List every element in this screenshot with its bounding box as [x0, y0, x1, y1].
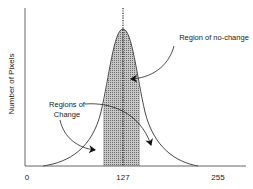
- x-tick-255: 255: [211, 173, 225, 182]
- y-axis-label: Number of Pixels: [7, 54, 16, 115]
- change-arrow-left: [60, 120, 95, 150]
- no-change-band: [103, 20, 140, 166]
- x-tick-127: 127: [116, 173, 130, 182]
- histogram-diagram: Number of Pixels 0 127 255 Region of no-…: [0, 0, 253, 189]
- no-change-label: Region of no-change: [179, 33, 249, 42]
- change-label-line2: Change: [54, 110, 80, 119]
- x-tick-0: 0: [25, 173, 30, 182]
- change-label-line1: Regions of: [49, 100, 86, 109]
